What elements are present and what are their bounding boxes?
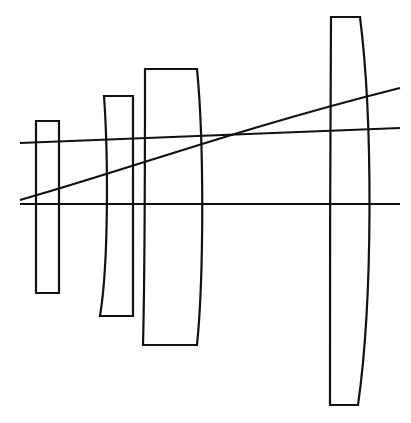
element-4-large-plano-convex <box>330 17 370 405</box>
lens-diagram-canvas <box>0 0 411 423</box>
lens-diagram-svg <box>0 0 411 423</box>
element-3-plano-convex <box>143 69 202 345</box>
element-1-flat-plate <box>36 121 59 293</box>
